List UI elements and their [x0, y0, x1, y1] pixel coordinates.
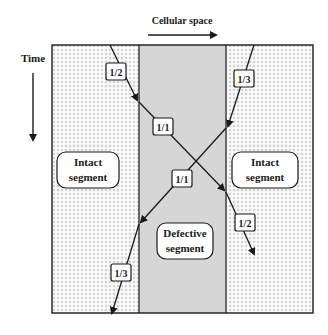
- svg-text:1/1: 1/1: [157, 122, 170, 133]
- svg-text:1/2: 1/2: [110, 67, 123, 78]
- left-segment-label: Intact segment: [57, 152, 119, 188]
- svg-text:segment: segment: [166, 242, 205, 254]
- ratio-box-middle-upper: 1/1: [153, 118, 173, 135]
- svg-text:Defective: Defective: [163, 227, 206, 239]
- cellular-space-label: Cellular space: [152, 15, 213, 26]
- segment-transmission-diagram: Cellular space Time 1/2 1/3 1/1 1/1 1/2 …: [0, 0, 328, 335]
- svg-text:1/2: 1/2: [239, 218, 252, 229]
- ratio-box-right-top: 1/3: [234, 70, 254, 87]
- right-segment-label: Intact segment: [232, 152, 298, 188]
- ratio-box-left-bottom: 1/3: [111, 264, 131, 281]
- svg-text:segment: segment: [69, 171, 108, 183]
- ratio-box-right-bottom: 1/2: [235, 214, 255, 231]
- svg-text:Intact: Intact: [74, 156, 102, 168]
- svg-text:1/3: 1/3: [115, 268, 128, 279]
- svg-text:segment: segment: [246, 171, 285, 183]
- defective-segment-label: Defective segment: [157, 223, 213, 259]
- svg-text:1/3: 1/3: [238, 74, 251, 85]
- ratio-box-left-top: 1/2: [106, 63, 126, 80]
- svg-text:1/1: 1/1: [176, 174, 189, 185]
- ratio-box-middle-lower: 1/1: [172, 170, 192, 187]
- svg-text:Intact: Intact: [251, 156, 279, 168]
- time-label: Time: [21, 52, 45, 64]
